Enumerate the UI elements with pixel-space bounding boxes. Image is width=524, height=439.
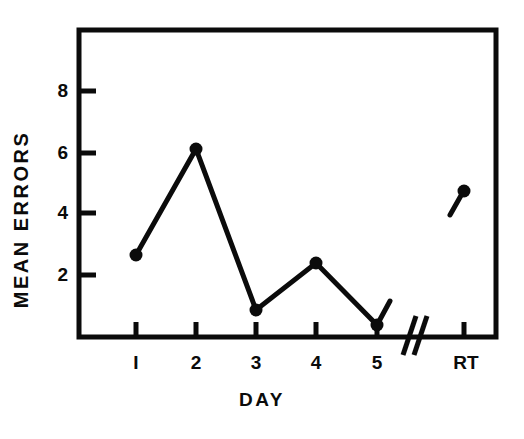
y-tick-label-6: 6	[50, 142, 68, 164]
y-tick-label-8: 8	[50, 80, 68, 102]
y-axis-title: MEAN ERRORS	[0, 0, 44, 439]
x-tick-label-2: 2	[191, 352, 202, 374]
x-tick-label-4: 4	[311, 352, 322, 374]
axes-border	[79, 30, 496, 337]
x-tick-label-3: 3	[251, 352, 262, 374]
data-point-rt	[458, 185, 471, 198]
y-tick-label-4: 4	[50, 202, 68, 224]
x-tick-label-1: I	[133, 352, 138, 374]
data-point-day-1	[130, 249, 143, 262]
data-point-day-2	[190, 143, 203, 156]
data-point-day-4	[310, 257, 323, 270]
line-chart-plot	[0, 0, 524, 439]
x-tick-label-5: 5	[372, 352, 383, 374]
x-tick-label-rt: RT	[453, 352, 478, 374]
plot-frame	[79, 30, 496, 337]
chart-figure: 8 6 4 2 I 2 3 4 5 RT MEAN ERRORS DAY	[0, 0, 524, 439]
data-point-day-5	[371, 319, 384, 332]
x-axis-title: DAY	[0, 389, 524, 411]
y-axis-title-text: MEAN ERRORS	[11, 131, 34, 309]
data-point-day-3	[250, 304, 263, 317]
y-tick-label-2: 2	[50, 264, 68, 286]
